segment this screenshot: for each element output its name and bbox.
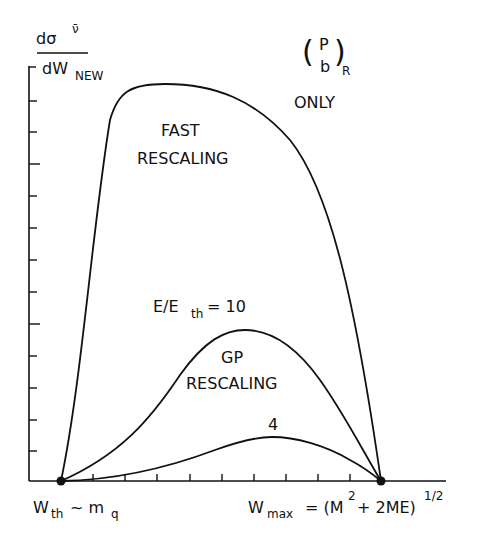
- svg-text:= (M: = (M: [305, 498, 344, 517]
- svg-text:1/2: 1/2: [424, 489, 443, 503]
- y-ticks: [29, 67, 40, 451]
- axes: [29, 66, 446, 481]
- gp-param-main: E/E: [153, 297, 179, 316]
- svg-text:W: W: [248, 498, 264, 517]
- curve-fast-rescaling: [61, 84, 381, 481]
- y-label-denominator: dW: [42, 59, 68, 78]
- svg-text:W: W: [33, 498, 49, 517]
- only-label: ONLY: [294, 93, 335, 112]
- svg-text:2: 2: [348, 489, 356, 503]
- gp-param-sub: th: [191, 307, 203, 321]
- top-right-annotation: ( P b ) R ONLY: [294, 34, 350, 112]
- y-axis-label: dσ ν̄ dW NEW: [36, 22, 104, 83]
- bracket-bottom: b: [320, 57, 330, 76]
- low-param-value: 4: [268, 415, 278, 434]
- y-label-numerator-sup: ν̄: [72, 22, 79, 36]
- bracket-subscript: R: [342, 64, 350, 78]
- fast-label-line1: FAST: [161, 121, 200, 140]
- svg-text:q: q: [111, 507, 119, 521]
- y-label-numerator: dσ: [36, 29, 56, 48]
- x-label-max: W max = (M 2 + 2ME) 1/2: [248, 489, 443, 521]
- gp-param-label: E/E th = 10: [153, 297, 246, 321]
- gp-label-line1: GP: [221, 348, 243, 367]
- gp-param-value: = 10: [207, 297, 246, 316]
- svg-text:~ m: ~ m: [70, 498, 104, 517]
- svg-text:th: th: [51, 507, 63, 521]
- left-paren: (: [302, 34, 314, 69]
- bracket-top: P: [319, 35, 329, 54]
- chart: dσ ν̄ dW NEW: [0, 0, 479, 546]
- svg-text:+ 2ME): + 2ME): [357, 498, 416, 517]
- svg-text:max: max: [267, 507, 293, 521]
- max-point: [377, 477, 386, 486]
- y-label-denominator-sub: NEW: [75, 69, 104, 83]
- x-ticks: [93, 474, 350, 481]
- gp-label-line2: RESCALING: [186, 374, 278, 393]
- fast-label-line2: RESCALING: [137, 149, 229, 168]
- x-label-threshold: W th ~ m q: [33, 498, 119, 521]
- curve-gp-rescaling-4: [61, 437, 381, 481]
- threshold-point: [57, 477, 66, 486]
